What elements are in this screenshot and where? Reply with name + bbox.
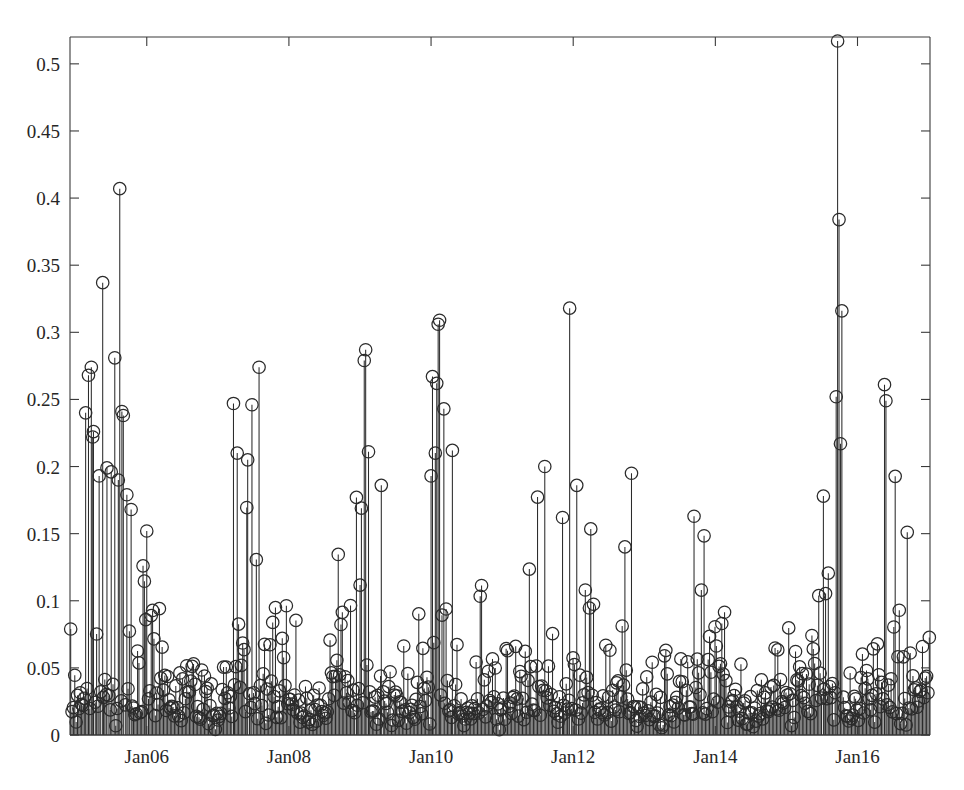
y-axis-tick-labels: 00.050.10.150.20.250.30.350.40.450.5 <box>27 54 61 746</box>
x-tick-label: Jan14 <box>693 746 738 767</box>
stem-plot-svg: 00.050.10.150.20.250.30.350.40.450.5 Jan… <box>0 0 964 790</box>
y-tick-label: 0.45 <box>27 121 60 142</box>
y-tick-label: 0.5 <box>36 54 60 75</box>
x-tick-label: Jan10 <box>409 746 453 767</box>
y-tick-label: 0.15 <box>27 524 60 545</box>
x-tick-label: Jan08 <box>267 746 311 767</box>
plot-area-background <box>70 37 930 735</box>
x-tick-label: Jan12 <box>551 746 595 767</box>
x-axis-tick-labels: Jan06Jan08Jan10Jan12Jan14Jan16 <box>125 746 880 767</box>
y-tick-label: 0 <box>51 725 61 746</box>
chart-figure: 00.050.10.150.20.250.30.350.40.450.5 Jan… <box>0 0 964 790</box>
x-tick-label: Jan16 <box>835 746 879 767</box>
y-tick-label: 0.1 <box>36 591 60 612</box>
y-tick-label: 0.4 <box>36 188 60 209</box>
y-tick-label: 0.2 <box>36 457 60 478</box>
y-tick-label: 0.05 <box>27 658 60 679</box>
y-tick-label: 0.25 <box>27 389 60 410</box>
y-tick-label: 0.35 <box>27 255 60 276</box>
x-tick-label: Jan06 <box>125 746 169 767</box>
y-tick-label: 0.3 <box>36 322 60 343</box>
